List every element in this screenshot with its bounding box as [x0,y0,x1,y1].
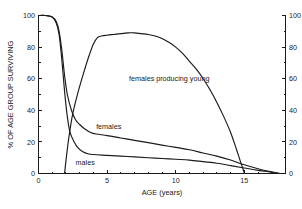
series-curve-females [39,15,281,173]
y2-axis-tick-label: 20 [289,138,297,147]
survivorship-fecundity-chart: 051015020406080100020406080100 femalesma… [0,0,302,209]
x-axis-tick-label: 0 [37,176,41,185]
y-axis-title: % OF AGE GROUP SURVIVING [6,40,15,148]
y-axis-tick-label: 80 [27,43,35,52]
x-axis-title: AGE (years) [142,188,183,197]
left-bottom-axis-spine [39,16,286,174]
x-axis-tick-label: 10 [172,176,180,185]
series-annotations: femalesmalesfemales producing young [76,74,210,167]
series-curve-females-producing-young [65,33,245,174]
y-axis-tick-label: 40 [27,106,35,115]
series-label-males: males [76,158,96,167]
y-axis-tick-label: 20 [27,138,35,147]
x-axis-tick-label: 15 [240,176,248,185]
data-series-curves [39,15,281,173]
axis-ticks [39,16,286,174]
series-label-females-producing-young: females producing young [129,74,209,83]
y2-axis-tick-label: 0 [289,169,293,178]
y2-axis-tick-label: 40 [289,106,297,115]
axes [39,16,286,174]
y-axis-tick-label: 100 [23,11,35,20]
y-axis-tick-label: 0 [31,169,35,178]
y2-axis-tick-label: 60 [289,74,297,83]
y2-axis-tick-label: 100 [289,11,301,20]
y-axis-tick-label: 60 [27,74,35,83]
x-axis-tick-label: 5 [105,176,109,185]
series-curve-males [39,15,281,173]
series-label-females: females [96,122,122,131]
chart-canvas: 051015020406080100020406080100 femalesma… [0,0,302,209]
y2-axis-tick-label: 80 [289,43,297,52]
